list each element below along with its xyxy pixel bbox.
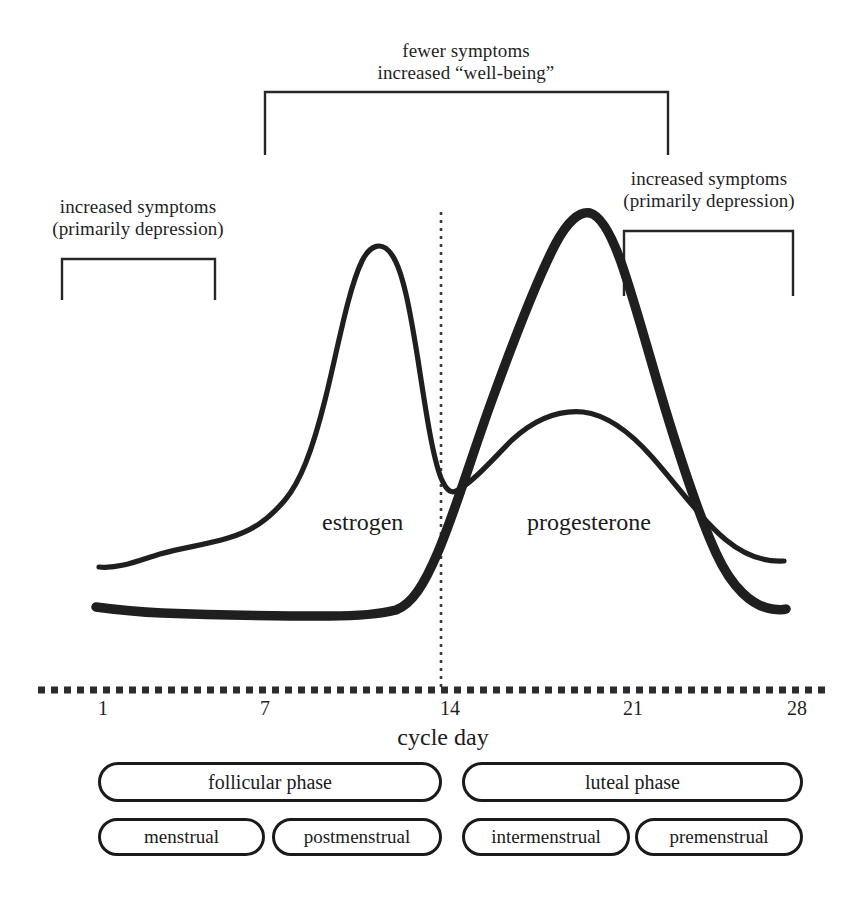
bracket-right: [624, 231, 793, 296]
phase-pill-premenstrual: premenstrual: [635, 818, 803, 856]
bracket-center: [265, 92, 668, 155]
phase-pill-postmenstrual-label: postmenstrual: [304, 826, 411, 848]
phase-pill-intermenstrual: intermenstrual: [462, 818, 630, 856]
estrogen-label: estrogen: [322, 509, 403, 536]
phase-pill-premenstrual-label: premenstrual: [669, 826, 768, 848]
phase-pill-follicular-label: follicular phase: [208, 771, 332, 794]
menstrual-cycle-hormone-figure: increased symptoms (primarily depression…: [0, 0, 861, 900]
phase-pill-follicular: follicular phase: [98, 762, 442, 802]
phase-pill-menstrual: menstrual: [98, 818, 265, 856]
x-tick-label-7: 7: [260, 697, 270, 720]
phase-pill-menstrual-label: menstrual: [144, 826, 219, 848]
progesterone-label: progesterone: [527, 509, 651, 536]
x-tick-label-28: 28: [787, 697, 807, 720]
x-axis-title: cycle day: [397, 724, 488, 751]
x-tick-label-21: 21: [623, 697, 643, 720]
x-tick-label-1: 1: [98, 697, 108, 720]
bracket-left: [62, 259, 215, 300]
phase-pill-intermenstrual-label: intermenstrual: [491, 826, 601, 848]
phase-pill-luteal: luteal phase: [462, 762, 803, 802]
phase-pill-luteal-label: luteal phase: [585, 771, 680, 794]
annotation-center-text: fewer symptoms increased “well-being”: [316, 40, 616, 85]
phase-pill-postmenstrual: postmenstrual: [272, 818, 442, 856]
annotation-right-text: increased symptoms (primarily depression…: [579, 168, 839, 213]
annotation-left-text: increased symptoms (primarily depression…: [8, 196, 268, 241]
x-tick-label-14: 14: [440, 697, 460, 720]
